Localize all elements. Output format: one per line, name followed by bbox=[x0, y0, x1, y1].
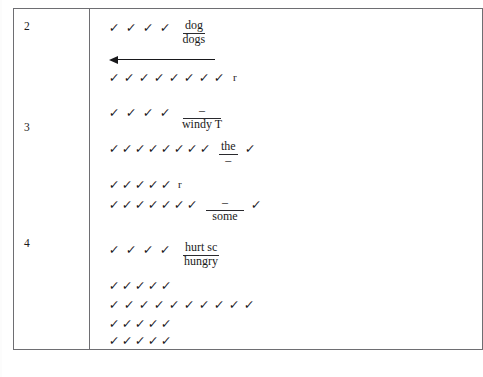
check-line-r4-l3: ✓✓✓✓✓✓✓✓✓✓ bbox=[109, 299, 259, 311]
checkmark-group: ✓✓✓✓✓✓✓✓ bbox=[109, 143, 213, 155]
checkmark-icon: ✓ bbox=[123, 72, 135, 84]
checkmark-icon: ✓ bbox=[147, 318, 159, 330]
checkmark-icon: ✓ bbox=[153, 299, 165, 311]
checkmark-icon: ✓ bbox=[160, 199, 172, 211]
checkmark-icon: ✓ bbox=[142, 244, 154, 256]
checkmark-icon: ✓ bbox=[142, 22, 154, 34]
row-number-3: 3 bbox=[24, 122, 30, 134]
annotation-windy-t: – windy T bbox=[183, 104, 221, 119]
check-line-r3-l1: ✓✓✓✓ – windy T bbox=[109, 104, 221, 119]
checkmark-icon: ✓ bbox=[213, 299, 225, 311]
checkmark-icon: ✓ bbox=[213, 72, 225, 84]
checkmark-icon: ✓ bbox=[134, 199, 146, 211]
checkmark-group: ✓✓✓✓✓✓✓✓✓✓ bbox=[109, 299, 259, 311]
checkmark-icon: ✓ bbox=[186, 143, 198, 155]
checkmark-icon: ✓ bbox=[108, 179, 120, 191]
checkmark-icon: ✓ bbox=[121, 280, 133, 292]
annotation-hurt-sc: hurt sc hungry bbox=[183, 241, 219, 256]
checkmark-group: ✓✓✓✓✓ bbox=[109, 318, 174, 330]
checkmark-icon: ✓ bbox=[160, 318, 172, 330]
checkmark-icon: ✓ bbox=[121, 335, 133, 347]
checkmark-group: ✓✓✓✓✓ bbox=[109, 280, 174, 292]
checkmark-icon: ✓ bbox=[125, 107, 137, 119]
checkmark-icon: ✓ bbox=[173, 199, 185, 211]
checkmark-icon: ✓ bbox=[108, 143, 120, 155]
checkmark-icon: ✓ bbox=[243, 299, 255, 311]
checkmark-icon: ✓ bbox=[160, 179, 172, 191]
check-line-r4-l2: ✓✓✓✓✓ bbox=[109, 280, 174, 292]
checkmark-icon: ✓ bbox=[121, 179, 133, 191]
check-line-r4-l4: ✓✓✓✓✓ bbox=[109, 318, 174, 330]
checkmark-icon: ✓ bbox=[198, 72, 210, 84]
checkmark-icon: ✓ bbox=[108, 199, 120, 211]
checkmark-icon: ✓ bbox=[147, 335, 159, 347]
checkmark-icon: ✓ bbox=[160, 280, 172, 292]
check-line-r2-l1: ✓✓✓✓ dog dogs bbox=[109, 19, 205, 34]
checkmark-icon: ✓ bbox=[198, 299, 210, 311]
checkmark-icon: ✓ bbox=[147, 280, 159, 292]
check-line-r2-l2: ✓✓✓✓✓✓✓✓ r bbox=[109, 70, 237, 84]
checkmark-icon: ✓ bbox=[250, 199, 262, 211]
checkmark-icon: ✓ bbox=[147, 179, 159, 191]
checkmark-group: ✓✓✓✓✓ bbox=[109, 335, 174, 347]
checkmark-icon: ✓ bbox=[134, 335, 146, 347]
checkmark-icon: ✓ bbox=[108, 72, 120, 84]
checkmark-icon: ✓ bbox=[228, 299, 240, 311]
checkmark-icon: ✓ bbox=[160, 335, 172, 347]
checkmark-icon: ✓ bbox=[138, 299, 150, 311]
checkmark-icon: ✓ bbox=[244, 143, 256, 155]
annotation-below-word: hungry bbox=[184, 255, 218, 268]
arrow-shaft bbox=[114, 59, 215, 60]
row-number-4: 4 bbox=[24, 238, 30, 250]
checkmark-group-after: ✓ bbox=[245, 143, 258, 155]
check-line-r3-l2: ✓✓✓✓✓✓✓✓ the – ✓ bbox=[109, 140, 258, 155]
check-line-r3-l3: ✓✓✓✓✓ r bbox=[109, 177, 182, 191]
checkmark-icon: ✓ bbox=[108, 22, 120, 34]
annotation-below-dash: – bbox=[225, 154, 231, 167]
annotation-below-word: some bbox=[212, 210, 237, 223]
checkmark-icon: ✓ bbox=[125, 22, 137, 34]
trailing-letter: r bbox=[178, 177, 182, 191]
annotation-below-word: windy T bbox=[182, 118, 222, 131]
checkmark-group: ✓✓✓✓ bbox=[109, 22, 177, 34]
annotation-some: – some bbox=[206, 196, 244, 211]
checkmark-icon: ✓ bbox=[183, 72, 195, 84]
checkmark-icon: ✓ bbox=[168, 299, 180, 311]
checkmark-icon: ✓ bbox=[159, 107, 171, 119]
check-line-r3-l4: ✓✓✓✓✓✓✓ – some ✓ bbox=[109, 196, 264, 211]
checkmark-icon: ✓ bbox=[186, 199, 198, 211]
table-content-column: ✓✓✓✓ dog dogs ✓✓✓✓✓✓✓✓ r ✓✓✓✓ – windy T bbox=[90, 9, 482, 349]
checkmark-group: ✓✓✓✓✓✓✓ bbox=[109, 199, 200, 211]
checkmark-icon: ✓ bbox=[147, 199, 159, 211]
scoring-table: 2 3 4 ✓✓✓✓ dog dogs ✓✓✓✓✓✓✓✓ r bbox=[13, 8, 483, 350]
checkmark-group: ✓✓✓✓✓ bbox=[109, 179, 174, 191]
checkmark-icon: ✓ bbox=[134, 280, 146, 292]
annotation-dog: dog dogs bbox=[183, 19, 205, 34]
checkmark-icon: ✓ bbox=[108, 107, 120, 119]
checkmark-icon: ✓ bbox=[160, 143, 172, 155]
checkmark-icon: ✓ bbox=[159, 22, 171, 34]
checkmark-icon: ✓ bbox=[183, 299, 195, 311]
checkmark-icon: ✓ bbox=[108, 335, 120, 347]
check-line-r4-l5: ✓✓✓✓✓ bbox=[109, 335, 174, 347]
checkmark-icon: ✓ bbox=[121, 143, 133, 155]
checkmark-group-after: ✓ bbox=[251, 199, 264, 211]
checkmark-icon: ✓ bbox=[173, 143, 185, 155]
row-number-2: 2 bbox=[24, 21, 30, 33]
checkmark-icon: ✓ bbox=[134, 318, 146, 330]
check-line-r4-l1: ✓✓✓✓ hurt sc hungry bbox=[109, 241, 219, 256]
checkmark-group: ✓✓✓✓ bbox=[109, 244, 177, 256]
checkmark-icon: ✓ bbox=[123, 299, 135, 311]
checkmark-group: ✓✓✓✓✓✓✓✓ bbox=[109, 72, 229, 84]
checkmark-icon: ✓ bbox=[121, 199, 133, 211]
checkmark-icon: ✓ bbox=[108, 318, 120, 330]
checkmark-icon: ✓ bbox=[153, 72, 165, 84]
checkmark-group: ✓✓✓✓ bbox=[109, 107, 177, 119]
annotation-the: the – bbox=[219, 140, 238, 155]
checkmark-icon: ✓ bbox=[108, 299, 120, 311]
checkmark-icon: ✓ bbox=[108, 244, 120, 256]
checkmark-icon: ✓ bbox=[108, 280, 120, 292]
checkmark-icon: ✓ bbox=[138, 72, 150, 84]
trailing-letter: r bbox=[233, 70, 237, 84]
